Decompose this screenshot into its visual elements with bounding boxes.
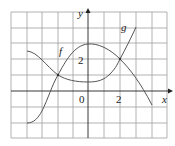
y-axis-label: y bbox=[77, 7, 83, 19]
grid bbox=[11, 12, 167, 138]
curve-f bbox=[27, 44, 152, 123]
y-axis-arrow-icon bbox=[86, 8, 91, 13]
intersection-point bbox=[119, 58, 121, 60]
curve-g-label: g bbox=[121, 21, 127, 33]
x-tick-label-2: 2 bbox=[116, 93, 122, 105]
graph-figure: y x 0 2 2 f g bbox=[0, 0, 175, 146]
x-axis-label: x bbox=[161, 93, 167, 105]
x-axis-arrow-icon bbox=[168, 89, 173, 94]
origin-label: 0 bbox=[79, 93, 85, 105]
intersection-point bbox=[57, 74, 59, 76]
y-tick-label-2: 2 bbox=[78, 54, 84, 66]
curve-f-label: f bbox=[59, 45, 64, 57]
